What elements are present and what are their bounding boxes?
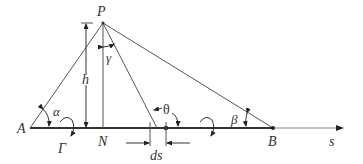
label-p: P <box>96 4 106 19</box>
label-s: s <box>329 134 335 149</box>
label-a: A <box>16 121 26 136</box>
label-b: B <box>268 134 277 149</box>
theta-arc <box>172 113 178 126</box>
label-beta: β <box>230 112 238 127</box>
circulation-arrow-right <box>200 117 214 136</box>
beta-arc <box>246 113 247 126</box>
line-p-ds <box>103 23 157 128</box>
label-theta: θ <box>163 102 170 117</box>
label-n: N <box>97 134 108 149</box>
label-ds: ds <box>150 148 163 163</box>
point-b <box>271 126 275 130</box>
line-pb <box>103 23 273 128</box>
point-p <box>102 22 105 25</box>
vortex-diagram: P A B N h α β γ θ Γ ds s <box>0 0 363 164</box>
label-h: h <box>82 72 89 87</box>
line-pa <box>30 23 103 128</box>
alpha-arc <box>43 109 49 126</box>
gamma-arc <box>103 44 114 47</box>
circulation-arrow-left <box>60 117 74 136</box>
label-gamma: γ <box>106 50 112 65</box>
theta-arrow-to-line <box>154 108 162 110</box>
label-circulation: Γ <box>57 141 67 156</box>
label-alpha: α <box>53 104 61 119</box>
